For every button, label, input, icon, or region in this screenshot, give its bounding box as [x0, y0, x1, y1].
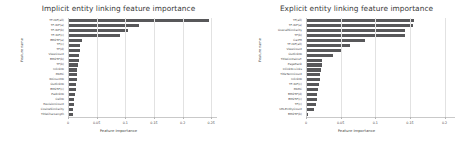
y-tick-label: PAIRC: [56, 73, 64, 76]
bar: [306, 93, 317, 96]
y-tick-label: TF-IDF(all): [287, 43, 302, 46]
x-tick-label: 0.25: [208, 121, 215, 125]
bar: [306, 19, 414, 22]
bar-row: [68, 24, 217, 27]
bar-row: [68, 98, 217, 101]
bar-row: [68, 49, 217, 52]
y-tick-label: PageRank: [288, 63, 302, 66]
gridline: [183, 18, 184, 117]
gridline: [410, 18, 411, 117]
y-axis-line: [306, 18, 307, 117]
gridline: [154, 18, 155, 117]
bar: [68, 68, 77, 71]
x-tick-labels-implicit: 00.050.10.150.20.25: [68, 117, 217, 127]
bar-row: [306, 113, 455, 116]
y-tick-label: BM25F(c): [50, 88, 64, 91]
bar: [306, 78, 320, 81]
y-tick-label: URLEntityCount: [279, 108, 302, 111]
bar-row: [306, 63, 455, 66]
chart-title-explicit: Explicit entity linking feature importan…: [238, 4, 475, 13]
gridline: [375, 18, 376, 117]
bar: [68, 34, 120, 37]
gridline: [445, 18, 446, 117]
bar: [306, 108, 314, 111]
bar-series-explicit: [306, 18, 455, 117]
bar-row: [68, 54, 217, 57]
y-tick-label: OutlinkID: [51, 83, 64, 86]
gridline: [125, 18, 126, 117]
x-tick-mark: [125, 117, 126, 119]
y-tick-label: TitleContainsT.: [281, 58, 302, 61]
y-tick-label: TitleTermCount: [280, 73, 302, 76]
gridline: [211, 18, 212, 117]
bar-row: [68, 63, 217, 66]
x-tick-mark: [375, 117, 376, 119]
bar-row: [68, 68, 217, 71]
bar: [68, 19, 209, 22]
bar: [306, 88, 318, 91]
y-tick-label: TF-IDF(c): [289, 83, 302, 86]
x-tick-mark: [211, 117, 212, 119]
x-tick-label: 0: [305, 121, 307, 125]
bar-row: [306, 88, 455, 91]
x-tick-mark: [97, 117, 98, 119]
x-axis-label-implicit: Feature importance: [0, 128, 237, 133]
bar-row: [306, 44, 455, 47]
chart-panel-implicit: Implicit entity linking feature importan…: [0, 0, 237, 145]
bar-row: [68, 39, 217, 42]
y-tick-label: InlinkID-Links: [283, 68, 302, 71]
y-tick-label: TF(b): [56, 63, 64, 66]
x-tick-mark: [341, 117, 342, 119]
bar-row: [306, 54, 455, 57]
bar: [68, 54, 79, 57]
y-tick-label: TF(c): [295, 103, 302, 106]
gridline: [97, 18, 98, 117]
y-tick-label: TF-IDF(all): [49, 19, 64, 22]
x-tick-label: 0.2: [442, 121, 447, 125]
bar: [306, 49, 341, 52]
y-tick-labels-implicit: TF-IDF(all)TF-IDF(a)TF-IDF(b)TF-IDF(c)BM…: [0, 18, 66, 117]
bar: [306, 103, 316, 106]
bar: [68, 83, 76, 86]
y-tick-label: InlinkID: [291, 78, 302, 81]
y-tick-label: OutlinkID: [289, 53, 302, 56]
y-tick-label: TF(d): [56, 48, 64, 51]
bar: [68, 29, 128, 32]
bar-row: [306, 103, 455, 106]
bar: [68, 73, 77, 76]
y-tick-label: TF-IDF(a): [51, 24, 64, 27]
bar: [306, 98, 317, 101]
bar-row: [306, 68, 455, 71]
y-tick-labels-explicit: TF(all)TF-IDF(a)OverallSimilarityTF(b)Ca…: [238, 18, 304, 117]
bar-row: [68, 34, 217, 37]
bar-row: [306, 24, 455, 27]
bar: [306, 73, 320, 76]
y-axis-line: [68, 18, 69, 117]
bar-row: [306, 34, 455, 37]
bar: [306, 34, 405, 37]
y-tick-label: RevisionCount: [43, 103, 64, 106]
x-tick-label: 0.1: [123, 121, 128, 125]
bar-row: [68, 19, 217, 22]
bar-row: [306, 98, 455, 101]
x-tick-label: 0.15: [406, 121, 413, 125]
y-tick-label: TF-IDF(b): [51, 29, 64, 32]
bar: [68, 63, 78, 66]
y-tick-label: IDCountID: [49, 78, 64, 81]
bar: [68, 49, 80, 52]
y-tick-label: TF-IDF(a): [289, 24, 302, 27]
y-tick-label: TF(b): [294, 34, 302, 37]
x-tick-mark: [154, 117, 155, 119]
figure-container: Implicit entity linking feature importan…: [0, 0, 475, 145]
x-tick-mark: [183, 117, 184, 119]
x-tick-label: 0.05: [337, 121, 344, 125]
bar-row: [68, 78, 217, 81]
bar-row: [68, 93, 217, 96]
bar-row: [68, 83, 217, 86]
bar-row: [68, 29, 217, 32]
y-tick-label: OverallSimilarity: [278, 29, 302, 32]
y-tick-label: CellID: [56, 98, 64, 101]
y-tick-label: PAIRC: [294, 88, 302, 91]
y-tick-label: TF-IDF(c): [51, 34, 64, 37]
chart-title-implicit: Implicit entity linking feature importan…: [0, 4, 237, 13]
